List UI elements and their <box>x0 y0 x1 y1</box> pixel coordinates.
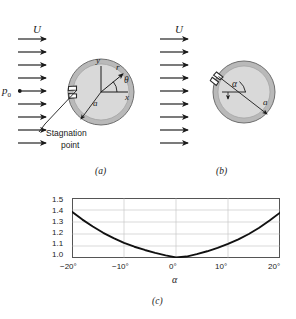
chart-ytick-1: 1.1 <box>52 239 63 248</box>
panel-a-label-theta: θ <box>124 76 129 86</box>
panel-a-flow-label: U <box>33 24 41 35</box>
panel-a: U p0 <box>0 0 150 185</box>
panel-c: U U' 1.5 1.4 1.3 1.2 1.1 1.0 <box>0 188 296 319</box>
chart-xtick-3: 10° <box>215 262 227 271</box>
chart-ytick-4: 1.4 <box>52 206 63 215</box>
panel-b: U α a (b) <box>148 0 296 185</box>
panel-a-label-x: x <box>125 93 129 102</box>
panel-b-caption: (b) <box>216 166 227 176</box>
figure-container: U p0 <box>0 0 296 319</box>
stagnation-point-label-line2: point <box>61 140 79 150</box>
chart-xtick-0: −20° <box>60 262 77 271</box>
panel-a-label-a: a <box>93 99 98 108</box>
panel-a-label-y: y <box>96 56 100 65</box>
pressure-tap-dot <box>18 89 22 93</box>
panel-b-label-alpha: α <box>232 80 237 90</box>
chart-xtick-4: 20° <box>268 262 280 271</box>
chart-xtick-2: 0° <box>169 262 177 271</box>
panel-b-flow-label: U <box>175 24 183 35</box>
chart-ytick-3: 1.3 <box>52 217 63 226</box>
panel-b-label-a: a <box>263 98 268 107</box>
panel-b-cylinder-diagram <box>204 52 284 140</box>
chart-xlabel: α <box>172 275 177 285</box>
chart-plot-area <box>72 198 280 258</box>
panel-a-caption: (a) <box>95 166 106 176</box>
chart-ytick-0: 1.0 <box>52 250 63 259</box>
chart-ytick-5: 1.5 <box>52 195 63 204</box>
panel-b-flow-arrows <box>160 36 202 148</box>
panel-a-label-r: r <box>116 63 120 72</box>
panel-a-pressure-label: p0 <box>2 85 11 99</box>
pressure-label-subscript: 0 <box>8 91 12 99</box>
chart-xtick-1: −10° <box>112 262 129 271</box>
stagnation-point-label-line1: Stagnation <box>46 128 87 138</box>
chart-ytick-2: 1.2 <box>52 228 63 237</box>
panel-c-caption: (c) <box>152 296 163 306</box>
